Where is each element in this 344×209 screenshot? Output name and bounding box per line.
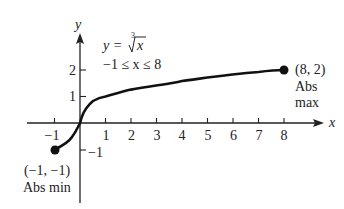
svg-text:8: 8 (281, 128, 288, 143)
svg-text:y =: y = (101, 38, 122, 53)
abs-max-annotation: (8, 2) Abs max (295, 62, 326, 110)
x-tick-labels: −1 1 2 3 4 5 6 7 8 (45, 128, 288, 143)
chart-canvas: −1 1 2 3 4 5 6 7 8 2 1 −1 x y y = 3 x −1… (0, 0, 344, 209)
svg-text:Abs: Abs (295, 79, 318, 94)
svg-text:(−1, −1): (−1, −1) (24, 163, 70, 179)
svg-text:7: 7 (256, 128, 263, 143)
svg-text:−1: −1 (88, 145, 103, 160)
svg-text:3: 3 (154, 128, 161, 143)
abs-min-annotation: (−1, −1) Abs min (23, 163, 71, 195)
svg-text:1: 1 (69, 89, 76, 104)
svg-text:5: 5 (205, 128, 212, 143)
x-ticks (55, 118, 285, 123)
svg-text:2: 2 (69, 63, 76, 78)
svg-text:Abs min: Abs min (23, 180, 71, 195)
svg-text:1: 1 (103, 128, 110, 143)
function-label: y = 3 x (101, 31, 146, 53)
cube-root-chart: −1 1 2 3 4 5 6 7 8 2 1 −1 x y y = 3 x −1… (0, 0, 344, 209)
domain-label: −1 ≤ x ≤ 8 (103, 57, 161, 72)
x-axis-label: x (328, 115, 336, 130)
svg-text:x: x (136, 38, 144, 53)
abs-max-point (280, 66, 289, 75)
svg-text:6: 6 (230, 128, 237, 143)
y-tick-labels: 2 1 −1 (69, 63, 103, 160)
svg-text:(8, 2): (8, 2) (295, 62, 326, 78)
y-axis-label: y (73, 17, 82, 32)
svg-text:2: 2 (128, 128, 135, 143)
svg-text:−1: −1 (45, 128, 60, 143)
curve-cube-root (55, 70, 285, 150)
svg-text:max: max (295, 95, 319, 110)
abs-min-point (51, 146, 60, 155)
svg-text:4: 4 (179, 128, 186, 143)
